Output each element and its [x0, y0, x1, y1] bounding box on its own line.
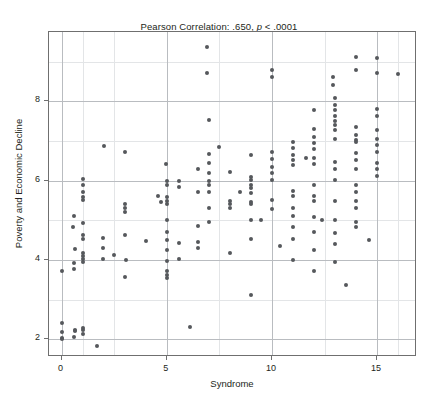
data-point: [207, 220, 211, 224]
data-point: [177, 241, 181, 245]
gridline-vertical: [272, 32, 273, 355]
data-point: [124, 258, 128, 262]
data-point: [291, 163, 295, 167]
data-point: [333, 114, 337, 118]
data-point: [270, 150, 274, 154]
data-point: [196, 190, 200, 194]
data-point: [207, 171, 211, 175]
data-point: [123, 210, 127, 214]
data-point: [81, 332, 85, 336]
data-point: [333, 128, 337, 132]
data-point: [375, 161, 379, 165]
data-point: [291, 258, 295, 262]
data-point: [188, 325, 192, 329]
data-point: [312, 156, 316, 160]
data-point: [312, 248, 316, 252]
gridline-horizontal-minor: [49, 141, 415, 142]
data-point: [60, 321, 64, 325]
data-point: [333, 160, 337, 164]
data-point: [207, 152, 211, 156]
data-point: [177, 185, 181, 189]
data-point: [291, 140, 295, 144]
data-point: [354, 55, 358, 59]
data-point: [270, 171, 274, 175]
data-point: [72, 261, 76, 265]
data-point: [291, 189, 295, 193]
data-point: [396, 72, 400, 76]
data-point: [354, 158, 358, 162]
data-point: [375, 107, 379, 111]
y-axis-tick: [44, 180, 48, 181]
data-point: [291, 206, 295, 210]
data-point: [101, 257, 105, 261]
data-point: [249, 293, 253, 297]
data-point: [270, 75, 274, 79]
data-point: [333, 167, 337, 171]
data-point: [165, 276, 169, 280]
data-point: [312, 194, 316, 198]
data-point: [165, 230, 169, 234]
data-point: [312, 135, 316, 139]
gridline-vertical-minor: [398, 32, 399, 355]
data-point: [81, 237, 85, 241]
data-point: [196, 224, 200, 228]
data-point: [354, 225, 358, 229]
data-point: [270, 207, 274, 211]
y-axis-tick-label: 2: [20, 332, 40, 342]
data-point: [196, 167, 200, 171]
x-axis-tick-label: 5: [151, 363, 181, 373]
data-point: [354, 183, 358, 187]
y-axis-label: Poverty and Economic Decline: [13, 84, 24, 284]
x-axis-tick: [271, 356, 272, 360]
x-axis-tick-label: 10: [256, 363, 286, 373]
data-point: [333, 96, 337, 100]
data-point: [249, 153, 253, 157]
data-point: [196, 246, 200, 250]
data-point: [123, 202, 127, 206]
data-point: [375, 56, 379, 60]
data-point: [101, 236, 105, 240]
data-point: [312, 215, 316, 219]
data-point: [101, 246, 105, 250]
gridline-horizontal: [49, 339, 415, 340]
gridline-vertical-minor: [219, 32, 220, 355]
data-point: [228, 170, 232, 174]
data-point: [165, 238, 169, 242]
x-axis-tick: [166, 356, 167, 360]
data-point: [344, 283, 348, 287]
data-point: [249, 237, 253, 241]
data-point: [270, 198, 274, 202]
data-point: [312, 147, 316, 151]
data-point: [291, 158, 295, 162]
data-point: [375, 128, 379, 132]
data-point: [333, 218, 337, 222]
scatter-plot-figure: Pearson Correlation: .650, p < .0001 051…: [0, 0, 427, 405]
data-point: [291, 153, 295, 157]
data-point: [331, 75, 335, 79]
data-point: [164, 162, 168, 166]
data-point: [205, 71, 209, 75]
data-point: [375, 150, 379, 154]
y-axis-tick: [44, 100, 48, 101]
x-axis-tick-label: 0: [46, 363, 76, 373]
data-point: [81, 260, 85, 264]
data-point: [333, 178, 337, 182]
data-point: [165, 218, 169, 222]
data-point: [354, 199, 358, 203]
data-point: [333, 231, 337, 235]
data-point: [71, 225, 75, 229]
data-point: [270, 178, 274, 182]
data-point: [228, 202, 232, 206]
data-point: [165, 202, 169, 206]
gridline-horizontal-minor: [49, 220, 415, 221]
data-point: [375, 174, 379, 178]
data-point: [333, 242, 337, 246]
data-point: [312, 108, 316, 112]
data-point: [249, 178, 253, 182]
data-point: [238, 190, 242, 194]
data-point: [207, 118, 211, 122]
data-point: [354, 206, 358, 210]
data-point: [312, 141, 316, 145]
data-point: [165, 195, 169, 199]
x-axis-label: Syndrome: [48, 378, 416, 389]
